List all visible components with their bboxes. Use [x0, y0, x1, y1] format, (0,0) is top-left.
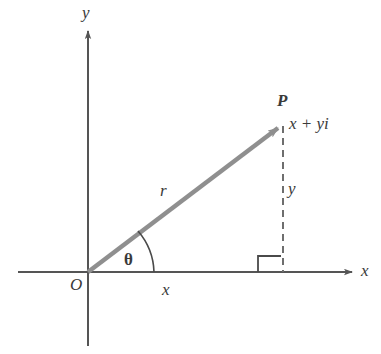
- diagram-canvas: [0, 0, 381, 354]
- complex-number-diagram: y x O P x + yi r θ y x: [0, 0, 381, 354]
- complex-value-label: x + yi: [289, 115, 329, 132]
- horizontal-leg-label: x: [162, 281, 170, 298]
- vertical-leg-label: y: [288, 180, 296, 197]
- point-p-label: P: [277, 92, 287, 109]
- angle-arc: [138, 231, 154, 272]
- radius-vector: [88, 128, 278, 272]
- x-axis-label: x: [361, 262, 369, 279]
- angle-theta-label: θ: [124, 251, 133, 268]
- radius-label: r: [160, 182, 167, 199]
- y-axis-label: y: [82, 4, 90, 21]
- right-angle-marker: [258, 256, 281, 272]
- origin-label: O: [70, 276, 82, 293]
